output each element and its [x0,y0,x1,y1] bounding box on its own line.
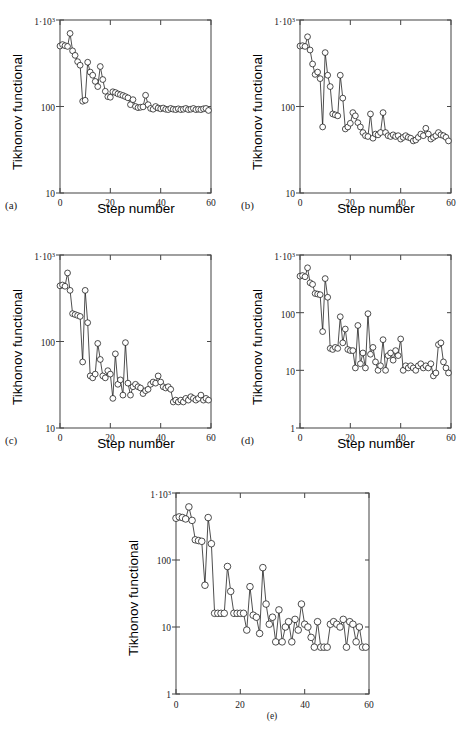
panel-c-plot: Tikhonov functional 10 100 1·103 0 20 40… [0,235,236,450]
panel-a-ylabel: Tikhonov functional [10,54,25,170]
panel-d-xtick-0: 0 [298,433,303,443]
panel-d-plot-area [296,255,451,428]
panel-e-plot: Tikhonov functional 1 10 100 1·103 0 20 … [112,470,392,720]
panel-a-tag: (a) [5,199,17,211]
panel-c-ytick-1: 100 [41,338,56,348]
panel-b-ytick-labels: 10 100 1·103 [274,16,295,199]
panel-a-xtick-0: 0 [58,198,63,208]
panel-b-tag: (b) [241,199,254,211]
panel-a-ytick-labels: 10 100 1·103 [34,16,55,199]
panel-c-xlabel: Step number [97,436,175,451]
panel-a-xlabel: Step number [97,201,175,216]
panel-c-ylabel: Tikhonov functional [10,289,25,405]
panel-b-plot: Tikhonov functional 10 100 1·103 0 20 40… [236,0,476,215]
panel-b-xtick-3: 60 [446,198,456,208]
panel-e-ytick-2: 100 [157,556,172,566]
panel-d-tag: (d) [241,434,254,446]
panel-a: Tikhonov functional 10 100 1·103 0 20 40… [0,0,236,215]
panel-b-ylabel: Tikhonov functional [250,54,265,170]
figure-multi-panel-convergence: Tikhonov functional 10 100 1·103 0 20 40… [0,0,476,730]
panel-e-xtick-labels: 0 20 40 60 [174,700,374,710]
panel-b: Tikhonov functional 10 100 1·103 0 20 40… [236,0,476,215]
panel-e-ytick-labels: 1 10 100 1·103 [150,489,171,700]
panel-d-ylabel: Tikhonov functional [250,289,265,405]
panel-d-ytick-0: 1 [290,424,295,434]
panel-e-xtick-2: 40 [300,700,310,710]
panel-e-ylabel: Tikhonov functional [126,540,141,656]
panel-c-tag: (c) [5,434,17,446]
panel-e-plot-area [172,493,369,694]
panel-d-ytick-1: 10 [286,367,296,377]
panel-e-ytick-1: 10 [162,623,172,633]
panel-d: Tikhonov functional 1 10 100 1·103 0 20 … [236,235,476,450]
panel-d-ytick-labels: 1 10 100 1·103 [274,251,295,434]
panel-d-plot: Tikhonov functional 1 10 100 1·103 0 20 … [236,235,476,450]
panel-d-ytick-2: 100 [281,310,296,320]
panel-a-ytick-1: 100 [41,103,56,113]
panel-b-xlabel: Step number [337,201,415,216]
panel-c: Tikhonov functional 10 100 1·103 0 20 40… [0,235,236,450]
panel-c-xtick-3: 60 [206,433,216,443]
panel-a-ytick-0: 10 [46,189,56,199]
panel-e-ytick-3: 1·103 [150,489,171,500]
panel-b-ytick-2: 1·103 [274,16,295,27]
panel-c-ytick-labels: 10 100 1·103 [34,251,55,434]
panel-e-xtick-1: 20 [235,700,245,710]
panel-b-plot-area [296,20,451,193]
panel-b-ytick-0: 10 [286,189,296,199]
panel-e-xtick-0: 0 [174,700,179,710]
panel-a-plot-area [56,20,211,193]
panel-e-xtick-3: 60 [364,700,374,710]
panel-d-xlabel: Step number [337,436,415,451]
panel-a-xtick-3: 60 [206,198,216,208]
panel-b-xtick-0: 0 [298,198,303,208]
panel-a-ytick-2: 1·103 [34,16,55,27]
panel-c-ytick-2: 1·103 [34,251,55,262]
panel-e-tag: (e) [267,711,278,722]
panel-c-ytick-0: 10 [46,424,56,434]
panel-e-ytick-0: 1 [166,690,171,700]
panel-b-ytick-1: 100 [281,103,296,113]
panel-c-plot-area [56,255,211,428]
panel-c-xtick-0: 0 [58,433,63,443]
panel-e: Tikhonov functional 1 10 100 1·103 0 20 … [112,470,392,720]
panel-d-ytick-3: 1·103 [274,251,295,262]
panel-d-xtick-3: 60 [446,433,456,443]
panel-a-plot: Tikhonov functional 10 100 1·103 0 20 40… [0,0,236,215]
